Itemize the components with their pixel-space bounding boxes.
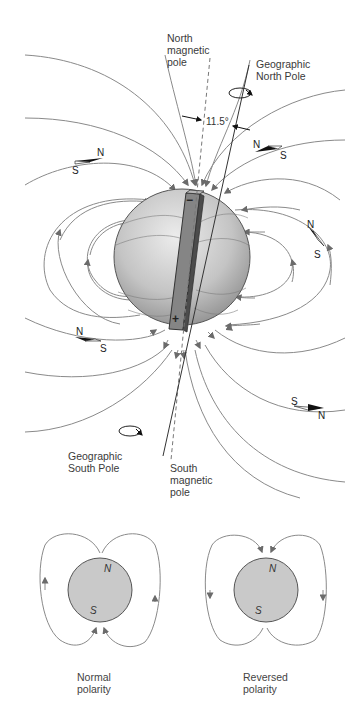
normal-polarity-globe: [68, 558, 132, 622]
compass-1-s: S: [72, 166, 79, 176]
reversed-n-letter: N: [269, 563, 276, 574]
compass-3-s: S: [314, 250, 321, 260]
rotation-arrow-south: [119, 426, 142, 436]
geomagnetic-field-figure: North magnetic pole Geographic North Pol…: [0, 0, 363, 702]
north-magnetic-pole-label: North magnetic pole: [167, 32, 210, 68]
compass-2-n: N: [253, 140, 260, 150]
normal-n-letter: N: [104, 563, 111, 574]
rotation-arrow-north: [229, 88, 252, 98]
compass-2-s: S: [280, 151, 287, 161]
reversed-polarity-globe: [234, 558, 298, 622]
magnet-positive-sign: +: [172, 312, 179, 326]
geographic-south-pole-label: Geographic South Pole: [68, 450, 122, 474]
geographic-north-pole-label: Geographic North Pole: [256, 58, 310, 82]
tilt-angle-label: 11.5°: [206, 116, 229, 127]
compass-5-n: N: [318, 411, 325, 421]
normal-polarity-caption: Normal polarity: [77, 671, 111, 695]
field-diagram-graphic: [0, 0, 363, 702]
compass-1-n: N: [97, 148, 104, 158]
reversed-polarity-caption: Reversed polarity: [243, 671, 288, 695]
reversed-s-letter: S: [255, 605, 262, 616]
magnet-negative-sign: −: [186, 193, 193, 207]
south-magnetic-pole-label: South magnetic pole: [170, 462, 213, 498]
compass-3-n: N: [307, 220, 314, 230]
normal-s-letter: S: [90, 605, 97, 616]
compass-5-s: S: [291, 397, 298, 407]
compass-4-n: N: [76, 327, 83, 337]
compass-4-s: S: [100, 344, 107, 354]
